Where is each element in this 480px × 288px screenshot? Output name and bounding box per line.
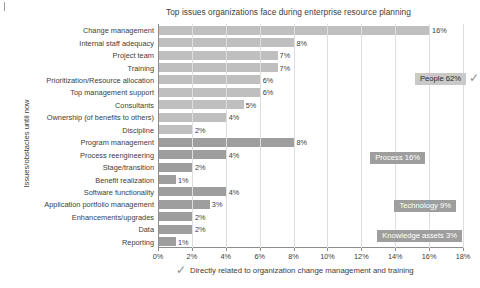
bar-value-label: 5%: [246, 100, 257, 109]
category-label: Software functionality: [84, 187, 154, 196]
group-label-people: People 62%: [415, 73, 466, 85]
category-label: Reporting: [122, 237, 154, 246]
bar-value-label: 4%: [229, 150, 240, 159]
bar: [159, 75, 261, 84]
bar-value-label: 8%: [297, 138, 308, 147]
bar-value-label: 7%: [280, 51, 291, 60]
category-label: Application portfolio management: [44, 200, 154, 209]
bar: [159, 38, 295, 47]
category-label: Training: [128, 63, 154, 72]
bar: [159, 163, 193, 172]
bar-value-label: 2%: [195, 212, 206, 221]
chart-row: Discipline2%: [158, 124, 463, 135]
x-axis-tick: [260, 248, 261, 251]
gridline: [192, 24, 193, 248]
category-label: Change management: [83, 26, 154, 35]
bar: [159, 237, 176, 246]
x-axis-tick: [294, 248, 295, 251]
category-label: Benefit realization: [95, 175, 154, 184]
category-label: Enhancements/upgrades: [72, 212, 154, 221]
chart-row: Top management support6%: [158, 87, 463, 98]
category-label: Ownership (of benefits to others): [47, 113, 154, 122]
bar-value-label: 8%: [297, 38, 308, 47]
chart-row: Internal staff adequacy8%: [158, 37, 463, 48]
gridline: [463, 24, 464, 248]
chart-row: Program management8%: [158, 137, 463, 148]
bar-value-label: 1%: [178, 237, 189, 246]
bar: [159, 88, 261, 97]
gridline: [429, 24, 430, 248]
gridline: [226, 24, 227, 248]
category-label: Project team: [113, 51, 155, 60]
x-axis-tick: [463, 248, 464, 251]
bar: [159, 26, 430, 35]
bar: [159, 113, 227, 122]
bar-value-label: 2%: [195, 125, 206, 134]
x-axis-tick-label: 2%: [187, 252, 198, 261]
x-axis-tick: [429, 248, 430, 251]
bar: [159, 125, 193, 134]
chart-row: Enhancements/upgrades2%: [158, 211, 463, 222]
x-axis-tick-label: 16%: [422, 252, 437, 261]
bar: [159, 212, 193, 221]
corner-tick-mark: [4, 2, 5, 11]
group-label-knowledge-assets: Knowledge assets 3%: [377, 230, 462, 242]
gridline: [294, 24, 295, 248]
x-axis-tick: [327, 248, 328, 251]
x-axis-tick-label: 8%: [288, 252, 299, 261]
chart-row: Benefit realization1%: [158, 174, 463, 185]
x-axis-tick-label: 12%: [354, 252, 369, 261]
category-label: Consultants: [115, 100, 154, 109]
bar: [159, 200, 210, 209]
bar: [159, 187, 227, 196]
category-label: Data: [138, 225, 154, 234]
category-label: Stage/transition: [103, 163, 154, 172]
chart-title: Top issues organizations face during ent…: [166, 7, 466, 17]
bar: [159, 175, 176, 184]
group-checkmark-icon: ✓: [469, 72, 479, 84]
category-label: Prioritization/Resource allocation: [46, 75, 154, 84]
group-label-technology: Technology 9%: [394, 200, 456, 212]
x-axis-tick-label: 10%: [320, 252, 335, 261]
chart-row: Training7%: [158, 62, 463, 73]
x-axis-tick-label: 18%: [456, 252, 471, 261]
category-label: Discipline: [122, 125, 154, 134]
x-axis-tick-label: 14%: [388, 252, 403, 261]
category-label: Program management: [80, 138, 154, 147]
chart-row: Ownership (of benefits to others)4%: [158, 112, 463, 123]
x-axis-tick: [395, 248, 396, 251]
chart-row: Change management16%: [158, 25, 463, 36]
bar: [159, 138, 295, 147]
bar-value-label: 2%: [195, 163, 206, 172]
y-axis-title: Issues/obstacles until now: [22, 49, 31, 239]
bar-value-label: 16%: [432, 26, 447, 35]
gridline: [260, 24, 261, 248]
x-axis-tick: [361, 248, 362, 251]
bar-value-label: 3%: [212, 200, 223, 209]
chart-row: Consultants5%: [158, 99, 463, 110]
bar: [159, 225, 193, 234]
gridline: [395, 24, 396, 248]
chart-row: Project team7%: [158, 50, 463, 61]
bar-value-label: 6%: [263, 88, 274, 97]
bar-value-label: 6%: [263, 75, 274, 84]
chart-container: Top issues organizations face during ent…: [0, 0, 480, 288]
bar-value-label: 4%: [229, 187, 240, 196]
x-axis-tick-label: 0%: [153, 252, 164, 261]
bar-value-label: 7%: [280, 63, 291, 72]
bar-value-label: 4%: [229, 113, 240, 122]
bar-value-label: 2%: [195, 225, 206, 234]
chart-row: Software functionality4%: [158, 186, 463, 197]
category-label: Internal staff adequacy: [79, 38, 154, 47]
gridline: [327, 24, 328, 248]
x-axis-tick-label: 6%: [254, 252, 265, 261]
x-axis-tick: [226, 248, 227, 251]
bar: [159, 100, 244, 109]
category-label: Top management support: [70, 88, 154, 97]
footnote-checkmark-icon: ✓: [176, 264, 186, 276]
bar-value-label: 1%: [178, 175, 189, 184]
x-axis-tick: [192, 248, 193, 251]
x-axis-tick-label: 4%: [220, 252, 231, 261]
category-label: Process reengineering: [80, 150, 154, 159]
bar: [159, 150, 227, 159]
